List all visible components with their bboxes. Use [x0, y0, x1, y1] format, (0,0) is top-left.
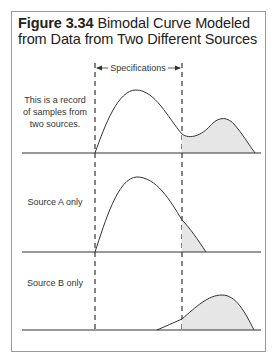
combined-label-line1: This is a record [24, 95, 86, 105]
combined-label: This is a record of samples from two sou… [20, 94, 90, 130]
bimodal-diagram [0, 0, 276, 363]
combined-label-line2: of samples from [23, 107, 87, 117]
source-b-distribution [22, 295, 261, 330]
source-a-label: Source A only [22, 196, 88, 208]
source-a-distribution [22, 177, 261, 252]
specifications-label: Specifications [108, 62, 168, 74]
source-b-label: Source B only [22, 277, 88, 289]
combined-label-line3: two sources. [30, 119, 81, 129]
